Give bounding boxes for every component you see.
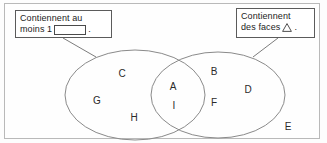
- rectangle-icon: [54, 25, 86, 35]
- venn-item-F: F: [211, 97, 217, 108]
- venn-item-H: H: [130, 112, 137, 123]
- callout-left-prefix: moins 1: [20, 24, 52, 35]
- venn-item-E: E: [285, 121, 292, 132]
- venn-item-A: A: [170, 81, 177, 92]
- venn-item-D: D: [244, 84, 251, 95]
- venn-item-I: I: [173, 100, 176, 111]
- callout-right-set: Contiennent des faces .: [236, 8, 315, 38]
- left-set-ellipse: [65, 50, 205, 140]
- venn-item-G: G: [93, 95, 101, 106]
- venn-diagram-canvas: Contiennent au moins 1 . Contiennent des…: [0, 0, 327, 143]
- callout-right-suffix: .: [294, 22, 297, 33]
- callout-left-line1: Contiennent au: [20, 13, 107, 24]
- callout-left-line2: moins 1 .: [20, 24, 107, 35]
- leader-line-right: [253, 38, 278, 57]
- callout-left-suffix: .: [88, 24, 91, 35]
- venn-item-B: B: [211, 66, 218, 77]
- callout-right-line2: des faces .: [241, 22, 310, 33]
- callout-right-prefix: des faces: [241, 22, 280, 33]
- venn-item-C: C: [118, 68, 125, 79]
- right-set-ellipse: [151, 52, 285, 138]
- leader-line-left: [63, 38, 96, 57]
- callout-left-set: Contiennent au moins 1 .: [15, 10, 112, 38]
- callout-right-line1: Contiennent: [241, 11, 310, 22]
- triangle-icon: [282, 23, 292, 32]
